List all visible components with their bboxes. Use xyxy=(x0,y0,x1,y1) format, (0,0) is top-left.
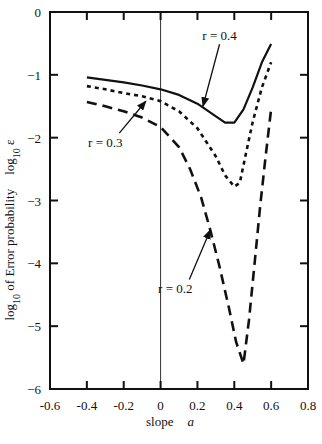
y-tick-label: −3 xyxy=(27,194,41,209)
x-tick-label: -0.4 xyxy=(77,398,98,413)
x-axis-title: slopea xyxy=(146,414,194,429)
axes: -0.6-0.4-0.200.20.40.60.80−1−2−3−4−5−6 xyxy=(27,5,316,413)
curve-label: r = 0.3 xyxy=(88,135,122,150)
annotation-arrow xyxy=(189,230,210,279)
curve-label: r = 0.4 xyxy=(202,28,237,43)
x-tick-label: -0.2 xyxy=(113,398,134,413)
y-tick-label: 0 xyxy=(35,5,42,20)
y-tick-label: −1 xyxy=(27,68,41,83)
curve-label: r = 0.2 xyxy=(158,281,192,296)
y-tick-label: −2 xyxy=(27,131,41,146)
x-tick-label: 0 xyxy=(157,398,164,413)
x-tick-label: -0.6 xyxy=(40,398,61,413)
annotation-arrow xyxy=(203,44,220,106)
y-tick-label: −5 xyxy=(27,319,41,334)
y-axis-title: log10 of Error probabilitylog10 ε xyxy=(2,139,22,321)
x-tick-label: 0.4 xyxy=(226,398,243,413)
annotations: r = 0.4r = 0.3r = 0.2 xyxy=(88,28,237,296)
y-tick-label: −6 xyxy=(27,382,41,397)
y-tick-label: −4 xyxy=(27,256,41,271)
x-tick-label: 0.8 xyxy=(300,398,316,413)
x-tick-label: 0.2 xyxy=(189,398,205,413)
curves xyxy=(87,44,271,364)
x-tick-label: 0.6 xyxy=(263,398,280,413)
error-probability-chart: -0.6-0.4-0.200.20.40.60.80−1−2−3−4−5−6 r… xyxy=(0,0,322,444)
